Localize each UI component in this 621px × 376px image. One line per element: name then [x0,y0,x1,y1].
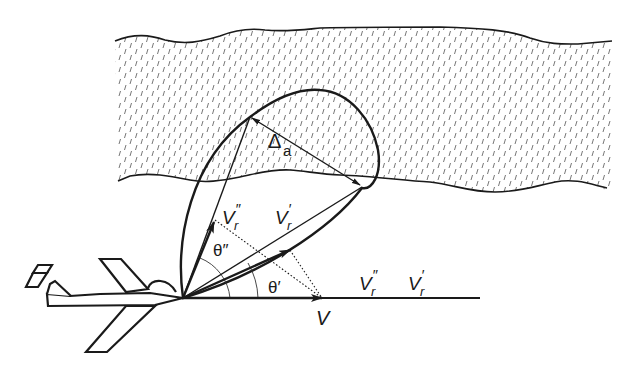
label-v: V [316,307,331,329]
aircraft-vertical-tail [47,281,71,296]
svg-text:′: ′ [288,200,292,217]
label-vr-double-prime-axis: V r ″ [359,266,378,299]
aircraft-stabilizer-lower [26,273,47,287]
svg-text:′: ′ [421,266,425,283]
aircraft-stabilizer-upper [33,265,52,273]
label-theta-double-prime: θ″ [213,241,228,260]
precipitation-hatching [110,20,620,200]
diagram-canvas: Δ a V r ″ V r ′ θ″ θ′ V r ″ V r ′ V [0,0,621,376]
svg-text:″: ″ [372,266,378,283]
label-theta-prime: θ′ [268,278,281,297]
aircraft [26,259,183,352]
cloud-layer [110,20,620,200]
aircraft-canopy [148,281,176,292]
delta-symbol: Δ [268,130,281,152]
label-vr-double-prime-top: V r ″ [222,200,241,233]
label-vr-prime-top: V r ′ [275,200,292,233]
svg-text:r: r [371,284,376,299]
projection-line-vr-prime [290,250,322,298]
delta-subscript: a [283,142,292,159]
svg-text:r: r [287,218,292,233]
svg-text:″: ″ [235,200,241,217]
aircraft-upper-wing [100,259,148,292]
aircraft-lower-wing [86,306,155,352]
svg-text:r: r [234,218,239,233]
label-vr-prime-axis: V r ′ [408,266,425,299]
svg-text:r: r [420,284,425,299]
